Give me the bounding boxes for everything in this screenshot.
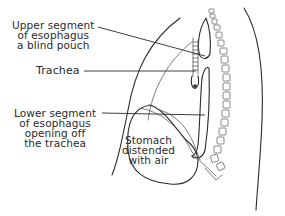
label-lower-segment: Lower segment of esophagus opening off t… — [14, 108, 96, 148]
lower-esophagus — [192, 67, 209, 158]
esophageal-atresia-diagram: Upper segment of esophagus a blind pouch… — [0, 0, 285, 216]
label-trachea-text: Trachea — [36, 66, 80, 76]
label-upper-segment-line3: a blind pouch — [12, 40, 95, 50]
leader-lower-segment — [102, 113, 205, 115]
thoracic-contour — [148, 42, 192, 120]
upper-esophagus-pouch — [198, 18, 210, 58]
label-stomach-line3: with air — [122, 155, 175, 165]
label-upper-segment: Upper segment of esophagus a blind pouch — [12, 20, 95, 50]
label-stomach: Stomach distended with air — [122, 135, 175, 165]
leader-upper-segment — [98, 27, 205, 56]
back-contour — [244, 8, 262, 210]
label-trachea: Trachea — [36, 66, 80, 76]
label-lower-segment-line4: the trachea — [14, 138, 96, 148]
trachea — [191, 38, 198, 88]
